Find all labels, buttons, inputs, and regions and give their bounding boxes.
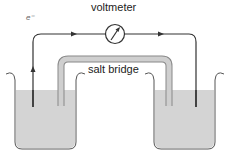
voltmeter-label: voltmeter xyxy=(91,1,136,13)
electron-label: e⁻ xyxy=(26,13,34,22)
salt-bridge-label: salt bridge xyxy=(86,63,141,75)
arrow-up-icon xyxy=(31,66,36,72)
electrochemical-cell-diagram: voltmeter salt bridge e⁻ xyxy=(0,0,230,159)
diagram-graphic xyxy=(0,0,230,159)
arrow-right-icon xyxy=(158,32,164,37)
arrow-right-icon xyxy=(71,32,77,37)
left-solution xyxy=(16,90,75,148)
right-solution xyxy=(155,90,214,148)
